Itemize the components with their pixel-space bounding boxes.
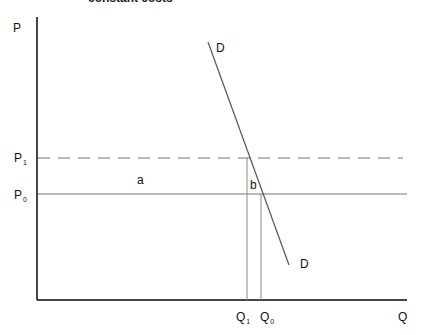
area-a-label: a — [137, 174, 144, 186]
area-b-label: b — [250, 179, 257, 191]
x-axis-label: Q — [398, 311, 407, 323]
q1-label: Q1 — [236, 311, 250, 323]
demand-curve — [208, 42, 289, 265]
diagram-canvas — [0, 0, 424, 335]
p0-label: P0 — [14, 189, 27, 201]
diagram-title: constant costs — [88, 0, 173, 5]
demand-label-bottom: D — [300, 258, 309, 270]
q0-label: Q0 — [260, 311, 274, 323]
y-axis-label: P — [13, 22, 21, 34]
p1-label: P1 — [14, 152, 27, 164]
demand-label-top: D — [216, 42, 225, 54]
